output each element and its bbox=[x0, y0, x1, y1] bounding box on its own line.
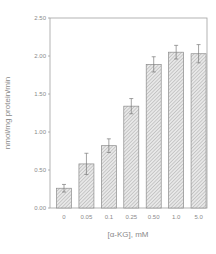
bar-rect bbox=[169, 52, 184, 208]
x-axis-label: [α-KG], mM bbox=[107, 230, 148, 239]
bars bbox=[57, 45, 207, 208]
bar-1.0 bbox=[169, 45, 184, 208]
x-tick-label: 0.1 bbox=[105, 214, 114, 220]
bar-0.50 bbox=[146, 57, 161, 208]
x-axis: 00.050.10.250.501.05.0 bbox=[62, 214, 203, 220]
bar-chart: 0.000.501.001.502.002.50 00.050.10.250.5… bbox=[0, 0, 216, 254]
x-tick-label: 0 bbox=[62, 214, 66, 220]
x-tick-label: 5.0 bbox=[194, 214, 203, 220]
x-tick-label: 0.25 bbox=[125, 214, 137, 220]
bar-0.05 bbox=[79, 153, 94, 208]
y-tick-label: 0.00 bbox=[34, 205, 46, 211]
bar-rect bbox=[101, 146, 116, 208]
y-tick-label: 2.00 bbox=[34, 53, 46, 59]
y-tick-label: 1.50 bbox=[34, 91, 46, 97]
bar-0 bbox=[57, 184, 72, 208]
bar-0.25 bbox=[124, 99, 139, 208]
bar-rect bbox=[146, 64, 161, 208]
x-tick-label: 1.0 bbox=[172, 214, 181, 220]
bar-rect bbox=[124, 106, 139, 208]
bar-5.0 bbox=[191, 45, 206, 208]
y-axis: 0.000.501.001.502.002.50 bbox=[34, 15, 50, 211]
y-tick-label: 1.00 bbox=[34, 129, 46, 135]
y-tick-label: 2.50 bbox=[34, 15, 46, 21]
y-axis-label: nmol/mg protein/min bbox=[3, 77, 12, 149]
bar-rect bbox=[191, 54, 206, 208]
bar-0.1 bbox=[101, 139, 116, 208]
x-tick-label: 0.05 bbox=[81, 214, 93, 220]
y-tick-label: 0.50 bbox=[34, 167, 46, 173]
x-tick-label: 0.50 bbox=[148, 214, 160, 220]
